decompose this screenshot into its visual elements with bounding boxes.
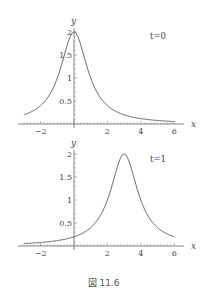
x-tick-label: 4 (138, 127, 143, 136)
x-tick-label: 2 (105, 127, 110, 136)
x-tick-label: −2 (35, 127, 47, 136)
x-tick-label: 4 (138, 249, 143, 258)
time-annotation: t=1 (150, 154, 166, 164)
x-tick-label: 2 (105, 249, 110, 258)
y-tick-label: 1.5 (59, 51, 72, 60)
x-axis-label: x (191, 241, 196, 251)
figure-caption: 図 11.6 (0, 276, 207, 289)
figure-plots: −22460.511.52xyt=0−22460.511.52xyt=1 (0, 0, 207, 294)
y-tick-label: 1.5 (59, 173, 72, 182)
y-tick-label: 2 (67, 150, 72, 159)
y-axis-label: y (70, 16, 77, 26)
y-tick-label: 1 (67, 196, 72, 205)
curve-t1 (24, 154, 174, 244)
y-tick-label: 0.5 (59, 97, 72, 106)
time-annotation: t=0 (150, 31, 166, 41)
y-tick-label: 2 (67, 28, 72, 37)
x-tick-label: 6 (172, 249, 177, 258)
x-axis-label: x (191, 119, 196, 129)
y-tick-label: 1 (67, 74, 72, 83)
y-tick-label: 0.5 (59, 219, 72, 228)
y-axis-label: y (70, 138, 77, 148)
x-tick-label: −2 (35, 249, 47, 258)
curve-t0 (24, 32, 174, 122)
x-tick-label: 6 (172, 127, 177, 136)
